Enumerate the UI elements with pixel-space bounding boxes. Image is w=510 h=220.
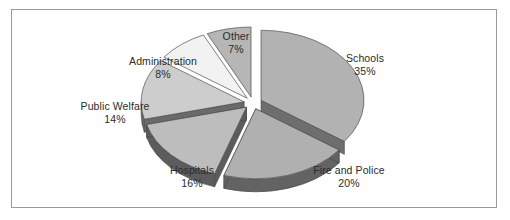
slice-label-schools-value: 35% (346, 65, 384, 78)
chart-canvas: Schools 35% Fire and Police 20% Hospital… (0, 0, 510, 220)
pie-chart-graphic (0, 0, 510, 220)
slice-label-schools-name: Schools (346, 52, 384, 65)
slice-label-fire-and-police: Fire and Police 20% (313, 164, 385, 189)
slice-label-public-welfare-name: Public Welfare (81, 100, 150, 113)
slice-label-hospitals-name: Hospitals (170, 164, 214, 177)
slice-label-schools: Schools 35% (346, 52, 384, 77)
slice-label-fire-and-police-value: 20% (313, 177, 385, 190)
slice-label-administration: Administration 8% (129, 55, 197, 80)
slice-label-fire-and-police-name: Fire and Police (313, 164, 385, 177)
slice-label-hospitals: Hospitals 16% (170, 164, 214, 189)
slice-label-hospitals-value: 16% (170, 177, 214, 190)
slice-label-other-name: Other (223, 30, 250, 43)
slice-label-public-welfare: Public Welfare 14% (81, 100, 150, 125)
slice-label-administration-value: 8% (129, 68, 197, 81)
slice-label-other: Other 7% (223, 30, 250, 55)
slice-label-other-value: 7% (223, 43, 250, 56)
slice-label-administration-name: Administration (129, 55, 197, 68)
slice-label-public-welfare-value: 14% (81, 113, 150, 126)
